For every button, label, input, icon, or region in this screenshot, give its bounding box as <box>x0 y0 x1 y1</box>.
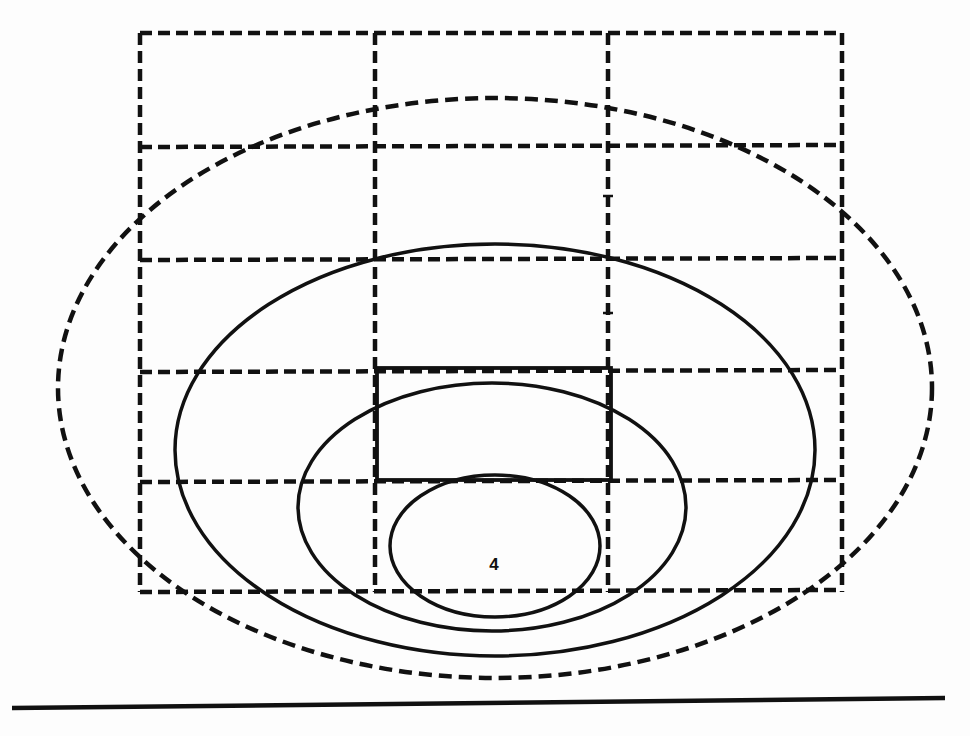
contour-diagram: 4 <box>0 0 970 736</box>
solid-rectangle-group <box>377 368 611 480</box>
grid-horizontal-line <box>140 370 842 372</box>
grid-horizontal-line <box>140 258 842 260</box>
grid-horizontal-line <box>140 145 842 147</box>
ellipse-medium-solid <box>298 383 686 631</box>
ellipse-group <box>58 98 932 678</box>
baseline-group <box>12 698 945 708</box>
diagram-canvas <box>0 0 970 736</box>
dashed-grid <box>140 33 842 592</box>
baseline-line <box>12 698 945 708</box>
contour-label: 4 <box>489 556 498 573</box>
ellipse-small-solid <box>390 475 600 617</box>
solid-rectangle <box>377 368 611 480</box>
ellipse-large-solid <box>175 244 815 656</box>
grid-horizontal-line <box>140 590 842 592</box>
